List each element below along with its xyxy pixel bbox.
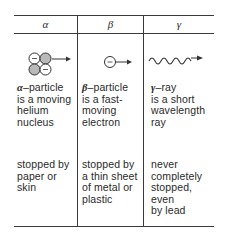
- table-top-rule: [14, 15, 214, 16]
- beta-symbol: β: [82, 82, 87, 93]
- column-divider-2: [143, 15, 144, 227]
- gamma-stopping: never completely stopped, even by lead: [151, 159, 217, 217]
- column-divider-1: [77, 15, 78, 227]
- header-alpha: α: [14, 17, 77, 32]
- alpha-particle-icon: [28, 52, 72, 78]
- alpha-symbol: α: [17, 82, 23, 93]
- table-bottom-rule: [14, 226, 214, 227]
- alpha-stopping: stopped by paper or skin: [17, 159, 77, 194]
- alpha-description: α–particle is a moving helium nucleus: [17, 82, 77, 128]
- beta-particle-icon: [103, 55, 133, 69]
- gamma-description: γ–ray is a short wavelength ray: [151, 82, 214, 128]
- header-separator: [14, 33, 214, 34]
- beta-stopping: stopped by a thin sheet of metal or plas…: [82, 159, 143, 205]
- gamma-ray-icon: [148, 53, 204, 67]
- header-beta: β: [78, 17, 143, 32]
- beta-description: β–particle is a fast- moving electron: [82, 82, 143, 128]
- gamma-symbol: γ: [151, 82, 155, 93]
- header-gamma: γ: [144, 17, 214, 32]
